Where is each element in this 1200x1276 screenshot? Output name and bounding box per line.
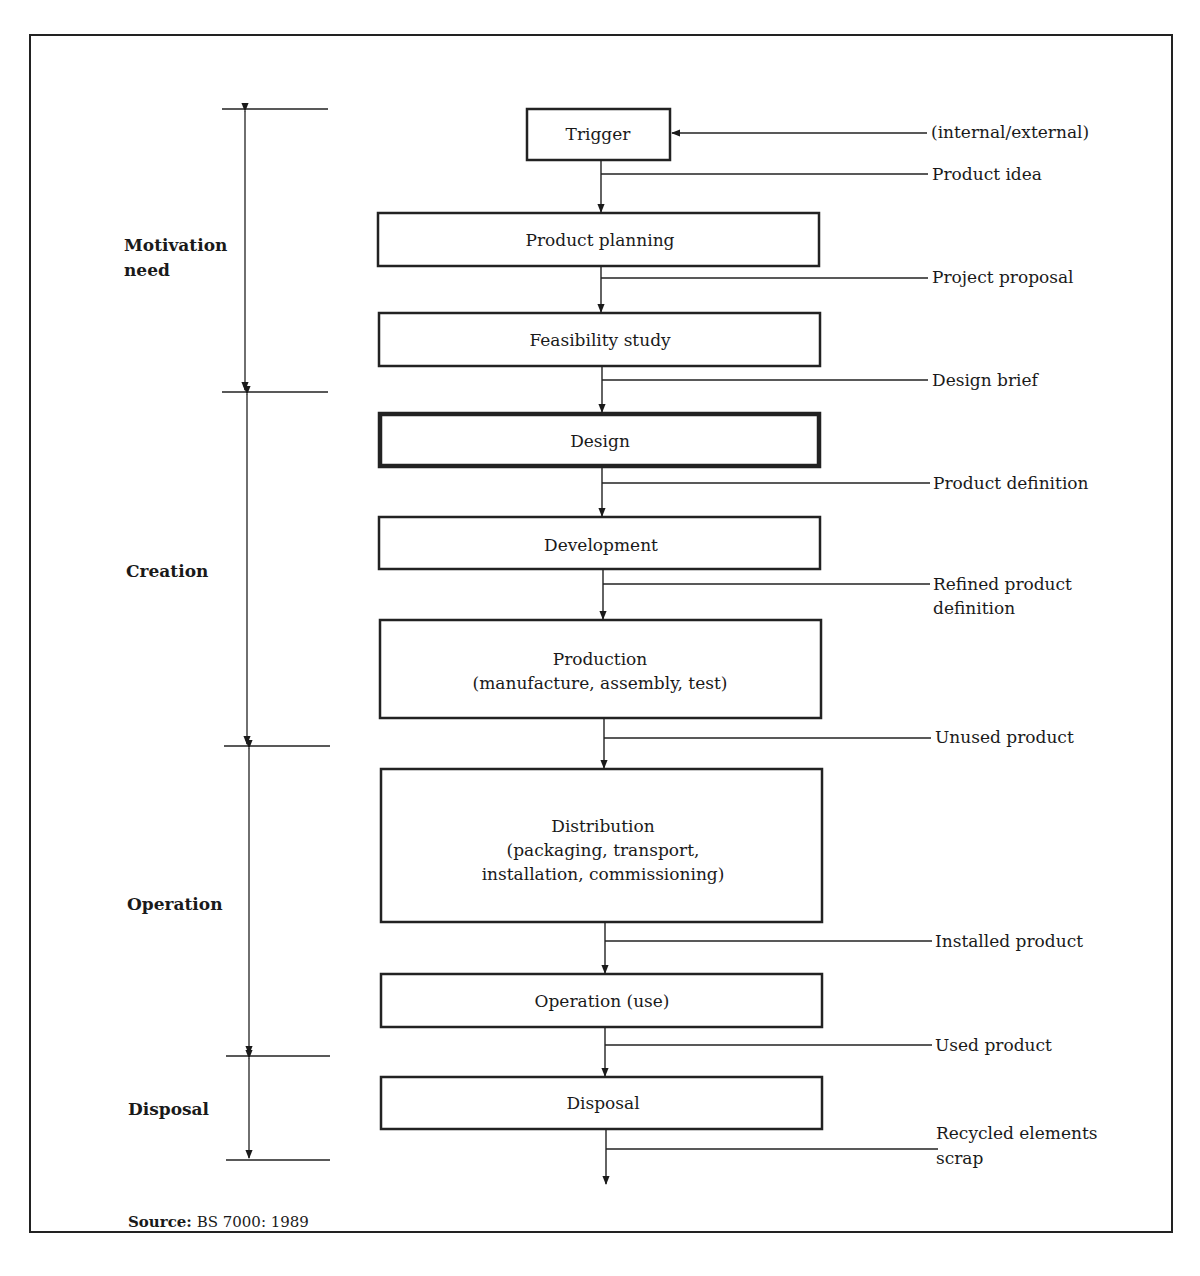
phase-label-operation: Operation xyxy=(127,894,223,914)
box-feasibility-study-label: Feasibility study xyxy=(529,330,671,350)
phase-label-creation: Creation xyxy=(126,561,208,581)
output-unused-product: Unused product xyxy=(935,727,1074,747)
output-recycled-elements-scrap: Recycled elementsscrap xyxy=(936,1123,1098,1168)
phase-dividers xyxy=(222,109,330,1160)
box-disposal-label: Disposal xyxy=(566,1093,639,1113)
box-design-label: Design xyxy=(570,431,630,451)
box-production xyxy=(380,620,821,718)
box-trigger-label: Trigger xyxy=(566,124,632,144)
output-used-product: Used product xyxy=(935,1035,1052,1055)
source-note: Source: BS 7000: 1989 xyxy=(128,1213,309,1231)
output-product-definition: Product definition xyxy=(933,473,1089,493)
product-lifecycle-diagram: Motivationneed Creation Operation Dispos… xyxy=(0,0,1200,1276)
output-product-idea: Product idea xyxy=(932,164,1042,184)
box-operation-use-label: Operation (use) xyxy=(535,991,670,1011)
phase-label-motivation: Motivationneed xyxy=(124,235,227,280)
box-development-label: Development xyxy=(544,535,658,555)
output-refined-product-definition: Refined productdefinition xyxy=(933,574,1072,618)
output-design-brief: Design brief xyxy=(932,370,1040,390)
trigger-input-label: (internal/external) xyxy=(931,122,1089,142)
phase-label-disposal: Disposal xyxy=(128,1099,210,1119)
output-installed-product: Installed product xyxy=(935,931,1083,951)
output-project-proposal: Project proposal xyxy=(932,267,1074,287)
phase-dimension-arrows xyxy=(245,111,249,1158)
box-product-planning-label: Product planning xyxy=(525,230,674,250)
